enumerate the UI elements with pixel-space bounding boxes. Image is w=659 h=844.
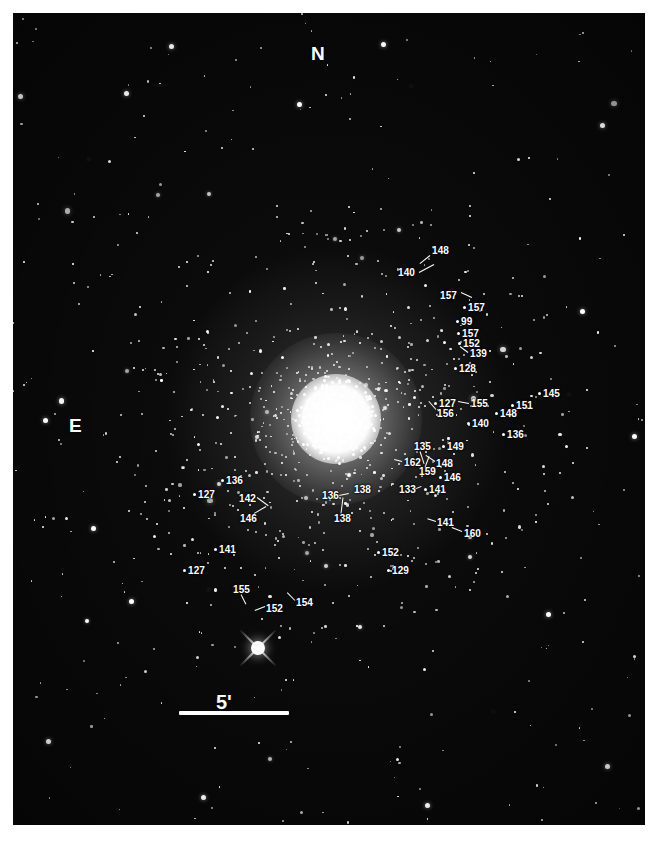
star-id-label: 159 [419,467,436,477]
label-leader-line [255,606,265,611]
star-id-label: 129 [392,566,409,576]
star-id-label: 146 [444,473,461,483]
star-id-label: 151 [516,401,533,411]
star-id-label: 136 [507,430,524,440]
star-id-label: 99 [461,317,472,327]
star-id-label: 136 [322,491,339,501]
star-id-label: 136 [226,476,243,486]
star-id-label: 156 [437,409,454,419]
photographic-plate: 1481401571579915715213912814512715515115… [13,13,645,825]
star-id-label: 157 [468,303,485,313]
star-id-label: 140 [398,268,415,278]
label-leader-line [458,401,469,404]
label-leader-line [427,518,436,522]
star-id-label: 145 [543,389,560,399]
star-id-label: 142 [239,494,256,504]
label-leader-line [339,493,349,496]
star-id-label: 133 [399,485,416,495]
star-id-label: 149 [447,442,464,452]
star-id-label: 139 [470,349,487,359]
compass-east-label: E [69,416,82,435]
star-id-label: 141 [429,485,446,495]
label-leader-line [341,497,344,513]
star-id-label: 140 [472,419,489,429]
star-id-label: 127 [188,566,205,576]
star-id-label: 157 [440,291,457,301]
star-id-label: 127 [198,490,215,500]
star-id-label: 138 [354,485,371,495]
star-id-label: 160 [464,529,481,539]
scale-bar-label: 5' [216,692,232,712]
scale-bar [179,711,289,715]
star-id-label: 141 [437,518,454,528]
star-id-label: 154 [296,598,313,608]
star-id-label: 148 [436,459,453,469]
label-leader-line [257,497,269,506]
label-leader-line [461,292,472,298]
plate-vignette [13,13,645,825]
star-id-label: 155 [471,399,488,409]
star-id-label: 146 [240,514,257,524]
star-id-label: 148 [500,409,517,419]
star-id-label: 128 [459,364,476,374]
label-leader-line [419,264,434,273]
star-id-label: 152 [266,604,283,614]
star-id-label: 141 [219,545,236,555]
star-id-label: 155 [233,585,250,595]
finding-chart-figure: 1481401571579915715213912814512715515115… [0,0,659,844]
star-id-label: 152 [382,548,399,558]
film-grain-overlay [13,13,645,825]
label-leader-line [287,592,296,601]
label-leader-line [394,459,402,462]
label-leader-line [420,255,431,264]
label-leader-line [241,594,247,604]
star-id-label: 138 [334,514,351,524]
label-leader-line [426,455,436,462]
compass-north-label: N [311,44,325,63]
star-id-label: 135 [414,442,431,452]
star-id-label: 148 [432,246,449,256]
